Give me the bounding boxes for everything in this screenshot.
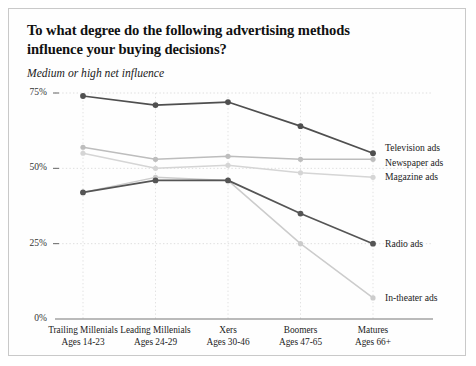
data-point bbox=[153, 166, 158, 171]
data-point bbox=[80, 93, 86, 99]
series-label-radio-ads: Radio ads bbox=[385, 238, 423, 249]
data-point bbox=[370, 241, 376, 247]
data-point bbox=[80, 190, 86, 196]
series-label-in-theater-ads: In-theater ads bbox=[385, 292, 437, 303]
data-point bbox=[370, 295, 375, 300]
data-point bbox=[153, 157, 158, 162]
data-point bbox=[298, 211, 304, 217]
x-axis-category-4: MaturesAges 66+ bbox=[325, 325, 421, 348]
data-point bbox=[370, 157, 375, 162]
series-label-newspaper-ads: Newspaper ads bbox=[385, 157, 443, 168]
data-point bbox=[298, 157, 303, 162]
data-point bbox=[153, 102, 159, 108]
data-point bbox=[80, 145, 85, 150]
data-point bbox=[225, 154, 230, 159]
x-axis-category-name: Matures bbox=[325, 325, 421, 337]
data-point bbox=[225, 177, 231, 183]
data-point bbox=[370, 175, 375, 180]
series-label-magazine-ads: Magazine ads bbox=[385, 171, 438, 182]
line-chart-plot bbox=[9, 9, 467, 357]
chart-card: To what degree do the following advertis… bbox=[8, 8, 466, 356]
y-axis-tick-label: 25% bbox=[13, 238, 47, 248]
data-point bbox=[153, 177, 159, 183]
data-point bbox=[370, 150, 376, 156]
data-point bbox=[80, 151, 85, 156]
y-axis-tick-label: 50% bbox=[13, 162, 47, 172]
series-label-television-ads: Television ads bbox=[385, 142, 440, 153]
data-point bbox=[298, 241, 303, 246]
data-point bbox=[298, 170, 303, 175]
y-axis-tick-label: 0% bbox=[13, 313, 47, 323]
x-axis-category-agerange: Ages 66+ bbox=[325, 337, 421, 349]
data-point bbox=[298, 123, 304, 129]
y-axis-tick-label: 75% bbox=[13, 87, 47, 97]
data-point bbox=[225, 163, 230, 168]
data-point bbox=[225, 99, 231, 105]
